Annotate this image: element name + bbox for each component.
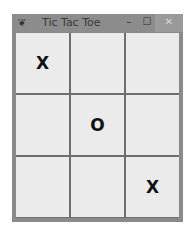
cell-0-1[interactable] xyxy=(71,33,124,93)
cell-0-2[interactable] xyxy=(126,33,179,93)
cell-1-0[interactable] xyxy=(16,95,69,155)
close-button[interactable]: ✕ xyxy=(155,14,183,32)
feather-icon: ❦ xyxy=(18,16,26,30)
game-board: X O X xyxy=(16,33,179,218)
maximize-button[interactable]: ☐ xyxy=(138,14,156,32)
cell-1-1[interactable]: O xyxy=(71,95,124,155)
cell-2-1[interactable] xyxy=(71,157,124,217)
minimize-button[interactable]: – xyxy=(120,14,138,32)
cell-2-2[interactable]: X xyxy=(126,157,179,217)
title-bar[interactable]: ❦ Tic Tac Toe – ☐ ✕ xyxy=(12,14,183,32)
cell-0-0[interactable]: X xyxy=(16,33,69,93)
cell-1-2[interactable] xyxy=(126,95,179,155)
cell-2-0[interactable] xyxy=(16,157,69,217)
app-window: ❦ Tic Tac Toe – ☐ ✕ X O X xyxy=(12,14,183,222)
window-title: Tic Tac Toe xyxy=(42,16,101,30)
